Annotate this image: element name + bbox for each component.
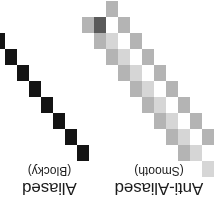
- aliased-block: [77, 145, 89, 161]
- aa-halo-block: [190, 145, 202, 161]
- aa-edge-block: [154, 113, 166, 129]
- aliased-block: [53, 113, 65, 129]
- anti-aliased-title: Anti-Aliased: [99, 180, 219, 198]
- aliased-block: [29, 81, 41, 97]
- aa-edge-block: [130, 81, 142, 97]
- aliased-title: Aliased: [0, 180, 99, 198]
- aliased-caption: Aliased (Blocky): [0, 164, 99, 197]
- panel-aliased: Aliased (Blocky): [0, 0, 99, 224]
- anti-aliased-caption: Anti-Aliased (Smooth): [99, 164, 219, 197]
- aa-edge-block: [178, 97, 190, 113]
- aa-halo-block: [106, 33, 118, 49]
- aa-halo-block: [130, 65, 142, 81]
- aa-edge-block: [106, 49, 118, 65]
- aliased-block: [41, 97, 53, 113]
- aa-edge-block: [142, 49, 154, 65]
- aa-edge-block: [118, 17, 130, 33]
- aa-edge-block: [202, 129, 214, 145]
- aa-edge-block: [142, 97, 154, 113]
- aliased-block: [17, 65, 29, 81]
- aliased-block: [0, 33, 5, 49]
- panel-anti-aliased: Anti-Aliased (Smooth): [99, 0, 219, 224]
- aliasing-comparison-figure: Anti-Aliased (Smooth) Aliased (Blocky): [0, 0, 219, 224]
- aa-halo-block: [178, 129, 190, 145]
- aliased-block: [65, 129, 77, 145]
- aa-edge-block: [118, 65, 130, 81]
- aa-edge-block: [130, 33, 142, 49]
- aliased-subtitle: (Blocky): [0, 164, 99, 177]
- aa-halo-block: [154, 97, 166, 113]
- aa-edge-block: [166, 129, 178, 145]
- anti-aliased-subtitle: (Smooth): [99, 164, 219, 177]
- aa-halo-block: [142, 81, 154, 97]
- aa-edge-block: [190, 113, 202, 129]
- aa-edge-block: [166, 81, 178, 97]
- aa-halo-block: [166, 113, 178, 129]
- aa-edge-block: [106, 1, 118, 17]
- aa-edge-block: [178, 145, 190, 161]
- aa-halo-block: [118, 49, 130, 65]
- aa-edge-block: [154, 65, 166, 81]
- aliased-block: [5, 49, 17, 65]
